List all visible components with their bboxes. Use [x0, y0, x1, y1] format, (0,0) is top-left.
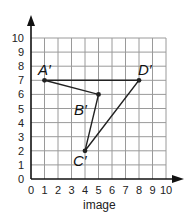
label-c-prime: C′: [73, 152, 88, 169]
x-tick-label: 10: [160, 184, 172, 196]
vertex-point: [137, 78, 142, 83]
x-tick-label: 6: [109, 184, 115, 196]
y-tick-label: 3: [18, 131, 24, 143]
y-tick-label: 5: [18, 103, 24, 115]
y-tick-label: 10: [12, 32, 24, 44]
y-tick-label: 8: [18, 60, 24, 72]
y-tick-label: 0: [18, 173, 24, 185]
quadrilateral-outline: [45, 80, 140, 151]
x-tick-label: 7: [122, 184, 128, 196]
y-tick-label: 9: [18, 46, 24, 58]
y-axis-arrow-icon: [27, 15, 35, 26]
vertex-point: [96, 92, 101, 97]
y-tick-label: 2: [18, 145, 24, 157]
coordinate-plane-figure: 012345678910 012345678910 A′ B′ C′ D′ im…: [0, 0, 193, 220]
x-tick-label: 1: [41, 184, 47, 196]
x-tick-label: 2: [55, 184, 61, 196]
x-tick-labels: 012345678910: [28, 184, 172, 196]
x-tick-label: 0: [28, 184, 34, 196]
grid-lines: [31, 38, 166, 179]
x-tick-label: 8: [136, 184, 142, 196]
x-tick-label: 4: [82, 184, 88, 196]
label-d-prime: D′: [138, 61, 153, 78]
coordinate-grid: 012345678910 012345678910 A′ B′ C′ D′ im…: [0, 0, 193, 220]
y-tick-label: 6: [18, 88, 24, 100]
y-tick-label: 7: [18, 74, 24, 86]
y-tick-label: 4: [18, 117, 24, 129]
label-b-prime: B′: [74, 101, 88, 118]
x-axis-title: image: [83, 198, 116, 212]
quadrilateral-image: [45, 80, 140, 151]
y-tick-labels: 012345678910: [12, 32, 24, 185]
x-tick-label: 3: [68, 184, 74, 196]
x-tick-label: 9: [149, 184, 155, 196]
x-axis-arrow-icon: [172, 175, 184, 183]
axes: [27, 15, 184, 183]
x-tick-label: 5: [95, 184, 101, 196]
y-tick-label: 1: [18, 159, 24, 171]
label-a-prime: A′: [37, 61, 52, 78]
vertex-point: [42, 78, 47, 83]
